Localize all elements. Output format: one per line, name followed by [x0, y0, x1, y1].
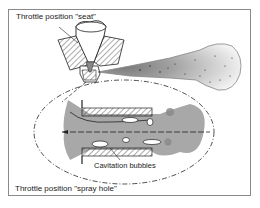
label-throttle-spray-hole: Throttle position "spray hole": [15, 184, 117, 193]
label-throttle-seat: Throttle position "seat": [16, 12, 96, 21]
injector-diagram: [0, 0, 260, 208]
label-cavitation-bubbles: Cavitation bubbles: [94, 161, 156, 170]
spray-hole-cross-section: [62, 100, 210, 164]
